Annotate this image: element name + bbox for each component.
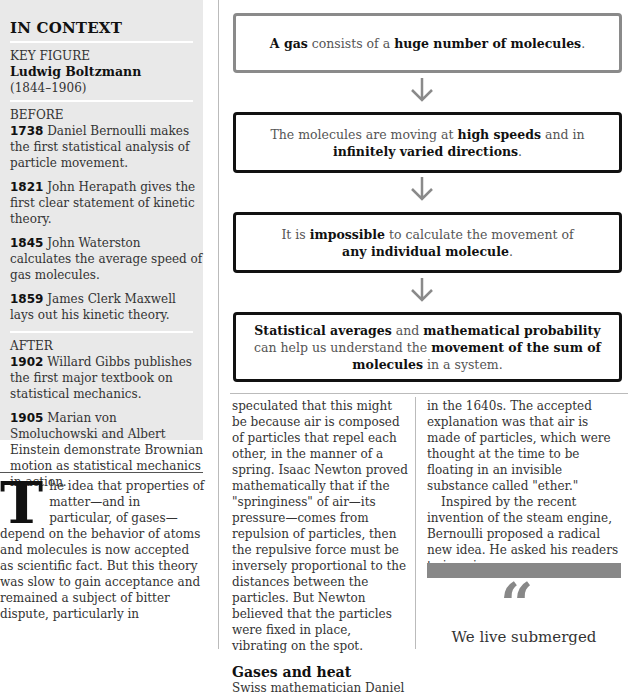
pull-quote-text: We live submerged [427,628,621,646]
article-column-1: T he idea that properties of matter—and … [0,478,205,622]
timeline-year: 1845 [10,236,43,250]
timeline-entry: 1845 John Waterston calculates the avera… [10,235,203,283]
column-divider [218,0,219,649]
column-2-text: speculated that this might be because ai… [232,398,410,654]
divider [10,100,193,102]
flowchart-bottom-rule [230,393,628,394]
column-2-continued: Swiss mathematician Daniel [232,680,410,696]
flowchart-box-2: The molecules are moving at high speeds … [233,112,622,173]
timeline-entry: 1859 James Clerk Maxwell lays out his ki… [10,291,203,323]
timeline-entry: 1821 John Herapath gives the first clear… [10,179,203,227]
subheading: Gases and heat [232,664,410,680]
timeline-entry: 1902 Willard Gibbs publishes the first m… [10,354,203,402]
before-list: 1738 Daniel Bernoulli makes the first st… [10,123,203,323]
divider [10,331,193,333]
key-figure-name: Ludwig Boltzmann [10,64,203,80]
after-label: AFTER [10,339,203,354]
arrow-down-icon [410,78,434,102]
article-column-3: in the 1640s. The accepted explanation w… [427,398,622,574]
flowchart-box-1: A gas consists of a huge number of molec… [233,13,622,73]
timeline-year: 1738 [10,124,43,138]
timeline-year: 1859 [10,292,43,306]
article-column-2: speculated that this might be because ai… [232,398,410,696]
key-figure-label: KEY FIGURE [10,49,203,64]
quote-mark-icon: “ [500,585,533,625]
before-label: BEFORE [10,108,203,123]
timeline-year: 1902 [10,355,43,369]
drop-cap: T [0,480,43,526]
flowchart-box-4: Statistical averages and mathematical pr… [233,312,622,382]
arrow-down-icon [410,278,434,302]
arrow-down-icon [410,177,434,201]
in-context-sidebar: IN CONTEXT KEY FIGURE Ludwig Boltzmann (… [0,0,203,440]
column-3-paragraph-2: Inspired by the recent invention of the … [427,494,622,574]
key-figure-dates: (1844–1906) [10,80,203,96]
divider [10,41,193,43]
sidebar-title: IN CONTEXT [10,19,203,37]
timeline-entry: 1738 Daniel Bernoulli makes the first st… [10,123,203,171]
flowchart-box-3: It is impossible to calculate the moveme… [233,212,622,273]
column-3-paragraph-1: in the 1640s. The accepted explanation w… [427,398,622,494]
column-divider [415,397,416,649]
timeline-year: 1821 [10,180,43,194]
decorative-dot [100,463,102,465]
timeline-year: 1905 [10,411,43,425]
